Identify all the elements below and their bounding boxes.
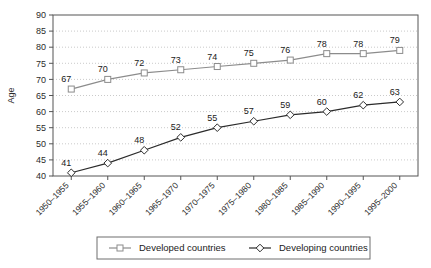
- y-tick-label-40: 40: [36, 171, 46, 181]
- data-label-0-0: 67: [61, 74, 71, 84]
- marker-point-1-9: [396, 98, 404, 106]
- y-tick-label-55: 55: [36, 123, 46, 133]
- marker-point-1-3: [177, 134, 185, 142]
- x-tick-label-7: 1985–1990: [289, 180, 326, 217]
- series-line-1: [71, 102, 400, 173]
- marker-point-0-4: [214, 64, 220, 70]
- data-label-1-7: 60: [317, 97, 327, 107]
- x-tick-label-2: 1960–1965: [107, 180, 144, 217]
- data-label-1-1: 44: [98, 148, 108, 158]
- x-tick-label-8: 1990–1995: [326, 180, 363, 217]
- y-axis-title: Age: [6, 87, 16, 103]
- x-tick-label-6: 1980–1985: [253, 180, 290, 217]
- x-tick-label-3: 1965–1970: [143, 180, 180, 217]
- marker-point-1-5: [250, 117, 258, 125]
- data-label-1-6: 59: [280, 100, 290, 110]
- y-tick-label-45: 45: [36, 155, 46, 165]
- marker-point-0-9: [397, 47, 403, 53]
- marker-point-0-7: [324, 51, 330, 57]
- data-label-1-0: 41: [61, 158, 71, 168]
- y-tick-label-85: 85: [36, 26, 46, 36]
- y-tick-label-65: 65: [36, 91, 46, 101]
- data-label-0-3: 73: [171, 55, 181, 65]
- data-label-1-2: 48: [134, 135, 144, 145]
- marker-point-0-5: [251, 60, 257, 66]
- data-label-0-2: 72: [134, 58, 144, 68]
- data-label-1-3: 52: [171, 122, 181, 132]
- data-label-1-5: 57: [244, 106, 254, 116]
- marker-point-0-2: [141, 70, 147, 76]
- series-developed: 67707273747576787879: [61, 35, 403, 92]
- x-tick-label-5: 1975–1980: [216, 180, 253, 217]
- data-label-0-6: 76: [280, 45, 290, 55]
- marker-point-1-6: [286, 111, 294, 119]
- data-label-0-8: 78: [353, 39, 363, 49]
- x-axis-ticks-group: 1950–19551955–19601960–19651965–19701970…: [34, 176, 400, 217]
- legend-marker-square-icon: [117, 245, 123, 251]
- legend-label-0: Developed countries: [139, 242, 226, 253]
- marker-point-0-6: [287, 57, 293, 63]
- series-developing: 41444852555759606263: [61, 87, 403, 177]
- marker-point-1-8: [359, 101, 367, 109]
- legend: Developed countriesDeveloping countries: [97, 237, 370, 259]
- marker-point-1-1: [104, 159, 112, 167]
- marker-point-1-4: [213, 124, 221, 132]
- marker-point-0-8: [360, 51, 366, 57]
- marker-point-0-3: [178, 67, 184, 73]
- x-tick-label-0: 1950–1955: [34, 180, 71, 217]
- marker-point-1-7: [323, 108, 331, 116]
- marker-point-1-2: [140, 146, 148, 154]
- data-label-0-1: 70: [98, 64, 108, 74]
- data-label-0-7: 78: [317, 39, 327, 49]
- marker-point-0-0: [68, 86, 74, 92]
- data-label-1-4: 55: [207, 113, 217, 123]
- x-tick-label-9: 1995–2000: [362, 180, 399, 217]
- y-tick-label-60: 60: [36, 107, 46, 117]
- data-label-1-8: 62: [353, 90, 363, 100]
- marker-point-0-1: [105, 76, 111, 82]
- y-tick-label-90: 90: [36, 10, 46, 20]
- y-tick-label-70: 70: [36, 75, 46, 85]
- y-tick-label-75: 75: [36, 59, 46, 69]
- x-tick-label-4: 1970–1975: [180, 180, 217, 217]
- y-axis-ticks-group: 4045505560657075808590: [36, 10, 53, 181]
- data-label-0-5: 75: [244, 48, 254, 58]
- life-expectancy-chart: 4045505560657075808590Age1950–19551955–1…: [0, 0, 431, 268]
- data-label-0-4: 74: [207, 52, 217, 62]
- legend-label-1: Developing countries: [279, 242, 368, 253]
- data-label-1-9: 63: [390, 87, 400, 97]
- marker-point-1-0: [67, 169, 75, 177]
- chart-canvas: 4045505560657075808590Age1950–19551955–1…: [0, 0, 431, 268]
- x-tick-label-1: 1955–1960: [70, 180, 107, 217]
- data-label-0-9: 79: [390, 35, 400, 45]
- series-line-0: [71, 50, 400, 89]
- y-tick-label-80: 80: [36, 42, 46, 52]
- y-tick-label-50: 50: [36, 139, 46, 149]
